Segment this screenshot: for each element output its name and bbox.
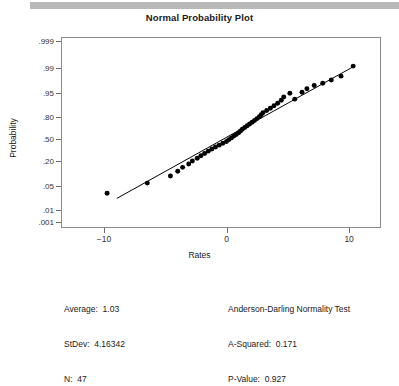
stat-a-squared: A-Squared: 0.171: [228, 339, 350, 351]
stat-p-value: P-Value: 0.927: [228, 374, 350, 386]
y-tick-mark: [56, 117, 61, 118]
plot-canvas: [62, 38, 380, 227]
data-point: [190, 158, 195, 163]
chart-title: Normal Probability Plot: [0, 12, 399, 23]
data-point: [300, 90, 305, 95]
y-tick-label: .95: [0, 89, 54, 98]
data-point: [180, 165, 185, 170]
data-point: [320, 81, 325, 86]
data-point: [175, 169, 180, 174]
y-tick-mark: [56, 222, 61, 223]
data-points: [105, 64, 356, 196]
x-tick-mark: [349, 228, 350, 233]
y-tick-label: .99: [0, 64, 54, 73]
y-tick-label: .20: [0, 157, 54, 166]
data-point: [312, 83, 317, 88]
y-tick-mark: [56, 41, 61, 42]
y-tick-label: .05: [0, 182, 54, 191]
data-point: [105, 191, 110, 196]
y-tick-mark: [56, 68, 61, 69]
y-tick-mark: [56, 186, 61, 187]
stat-average: Average: 1.03: [64, 304, 125, 316]
data-point: [281, 95, 286, 100]
x-tick-label: 10: [344, 234, 353, 244]
data-point: [168, 174, 173, 179]
data-point: [287, 91, 292, 96]
data-point: [304, 86, 309, 91]
y-tick-label: .80: [0, 113, 54, 122]
y-tick-mark: [56, 139, 61, 140]
descriptive-stats: Average: 1.03 StDev: 4.16342 N: 47: [64, 281, 125, 386]
plot-frame: [61, 37, 381, 228]
x-tick-label: 0: [224, 234, 229, 244]
stat-stdev: StDev: 4.16342: [64, 339, 125, 351]
y-tick-mark: [56, 210, 61, 211]
y-tick-mark: [56, 93, 61, 94]
y-tick-mark: [56, 161, 61, 162]
y-tick-label: .001: [0, 218, 54, 227]
data-point: [292, 97, 297, 102]
x-tick-mark: [104, 228, 105, 233]
x-tick-label: −10: [97, 234, 111, 244]
data-point: [351, 64, 356, 69]
normality-test-stats: Anderson-Darling Normality Test A-Square…: [228, 281, 350, 386]
y-tick-label: .50: [0, 135, 54, 144]
test-name: Anderson-Darling Normality Test: [228, 304, 350, 316]
x-tick-mark: [227, 228, 228, 233]
data-point: [145, 181, 150, 186]
y-tick-label: .01: [0, 206, 54, 215]
top-accent-bar: [30, 2, 399, 9]
data-point: [329, 78, 334, 83]
x-axis-label: Rates: [0, 250, 399, 260]
y-tick-label: .999: [0, 37, 54, 46]
stat-n: N: 47: [64, 374, 125, 386]
data-point: [339, 74, 344, 79]
